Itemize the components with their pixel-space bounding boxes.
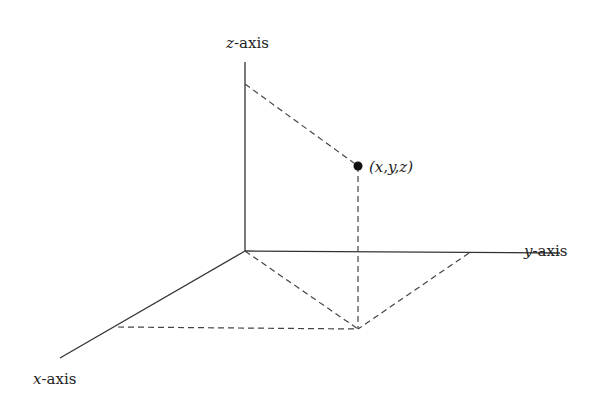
x-axis-label: x-axis xyxy=(33,370,76,388)
y-corner-to-xy-projection-line xyxy=(358,253,469,329)
point-marker xyxy=(354,162,363,171)
x-corner-to-xy-projection-line xyxy=(118,327,358,329)
x-axis-line xyxy=(60,251,245,358)
coordinate-diagram: z-axis y-axis x-axis (x,y,z) xyxy=(0,0,602,400)
z-axis-label: z-axis xyxy=(225,34,269,52)
y-axis-label: y-axis xyxy=(523,242,567,260)
point-label: (x,y,z) xyxy=(369,158,413,176)
y-axis-line xyxy=(245,251,560,253)
z-projection-line xyxy=(245,84,358,166)
origin-to-xy-projection-line xyxy=(245,251,358,329)
